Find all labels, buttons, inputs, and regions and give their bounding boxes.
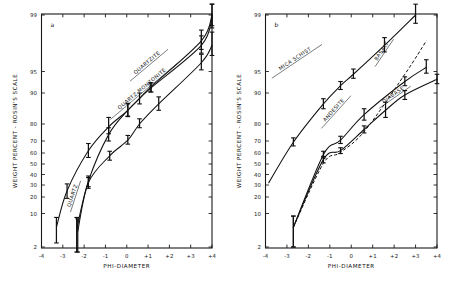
panel-letter: a <box>51 21 55 28</box>
x-tick-label: +3 <box>187 253 195 259</box>
y-tick-label: 99 <box>254 12 262 18</box>
x-tick-label: +4 <box>208 253 217 259</box>
x-tick-label: +1 <box>369 253 377 259</box>
y-tick-label: 10 <box>254 211 262 217</box>
y-tick-label: 60 <box>30 150 38 156</box>
y-tick-label: 70 <box>254 138 262 144</box>
x-axis-title: PHI-DIAMETER <box>103 263 150 269</box>
y-tick-label: 80 <box>30 121 38 127</box>
y-axis-title: WEIGHT PERCENT - ROSIN'S SCALE <box>12 74 18 189</box>
x-tick-label: -2 <box>81 253 87 259</box>
y-tick-label: 80 <box>254 121 262 127</box>
y-tick-label: 40 <box>30 172 38 178</box>
y-tick-label: 90 <box>254 90 262 96</box>
x-tick-label: +2 <box>165 253 173 259</box>
x-tick-label: 0 <box>349 253 353 259</box>
x-tick-label: +2 <box>390 253 398 259</box>
y-tick-label: 50 <box>30 161 38 167</box>
x-tick-label: -1 <box>103 253 109 259</box>
x-tick-label: +1 <box>144 253 152 259</box>
x-tick-label: -3 <box>284 253 290 259</box>
y-tick-label: 20 <box>30 194 38 200</box>
y-tick-label: 95 <box>30 69 37 75</box>
x-tick-label: 0 <box>125 253 129 259</box>
y-tick-label: 10 <box>30 211 38 217</box>
scientific-figure: 21020304050607080909599-4-3-2-10+1+2+3+4… <box>0 0 456 293</box>
x-tick-label: +3 <box>411 253 419 259</box>
y-tick-label: 2 <box>33 244 37 250</box>
panel-letter: b <box>275 21 279 28</box>
y-tick-label: 95 <box>254 69 261 75</box>
y-tick-label: 70 <box>30 138 38 144</box>
y-tick-label: 20 <box>254 194 262 200</box>
y-tick-label: 60 <box>254 150 262 156</box>
x-tick-label: -4 <box>263 253 269 259</box>
y-tick-label: 30 <box>254 182 262 188</box>
figure-container: 21020304050607080909599-4-3-2-10+1+2+3+4… <box>0 0 456 293</box>
x-axis-title: PHI-DIAMETER <box>328 263 375 269</box>
y-tick-label: 99 <box>30 12 38 18</box>
x-tick-label: +4 <box>433 253 442 259</box>
y-tick-label: 50 <box>254 161 262 167</box>
y-tick-label: 2 <box>257 244 261 250</box>
y-tick-label: 30 <box>30 182 38 188</box>
x-tick-label: -2 <box>306 253 312 259</box>
y-axis-title: WEIGHT PERCENT - ROSIN'S SCALE <box>236 74 242 189</box>
x-tick-label: -4 <box>39 253 45 259</box>
x-tick-label: -3 <box>60 253 66 259</box>
y-tick-label: 40 <box>254 172 262 178</box>
y-tick-label: 90 <box>30 90 38 96</box>
x-tick-label: -1 <box>327 253 333 259</box>
